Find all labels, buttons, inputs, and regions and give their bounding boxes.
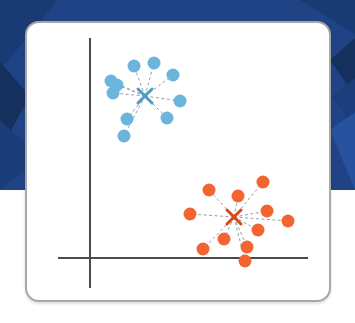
cluster-points — [105, 57, 295, 268]
data-point — [118, 130, 131, 143]
data-point — [184, 208, 197, 221]
data-point — [121, 113, 134, 126]
scatter-plot — [27, 23, 329, 300]
data-point — [197, 243, 210, 256]
centroid-marker — [227, 210, 241, 224]
data-point — [161, 112, 174, 125]
data-point — [107, 87, 120, 100]
centroid-marker — [138, 89, 152, 103]
cluster-spoke — [190, 214, 234, 217]
data-point — [239, 255, 252, 268]
data-point — [174, 95, 187, 108]
data-point — [241, 241, 254, 254]
data-point — [282, 215, 295, 228]
data-point — [257, 176, 270, 189]
data-point — [203, 184, 216, 197]
data-point — [105, 75, 118, 88]
data-point — [218, 233, 231, 246]
data-point — [252, 224, 265, 237]
cluster-centroids — [138, 89, 241, 224]
chart-card — [25, 21, 331, 302]
data-point — [128, 60, 141, 73]
plot-axes — [58, 38, 308, 288]
data-point — [167, 69, 180, 82]
data-point — [232, 190, 245, 203]
data-point — [148, 57, 161, 70]
cluster-spoke — [234, 217, 288, 221]
data-point — [261, 205, 274, 218]
